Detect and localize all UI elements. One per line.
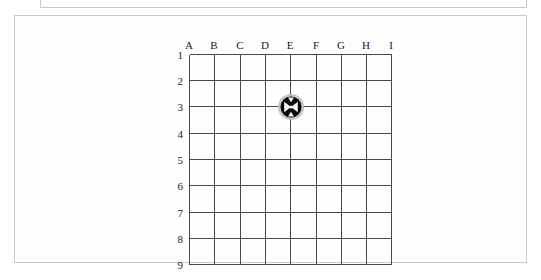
top-panel: [40, 0, 527, 8]
row-label-5: 5: [169, 155, 183, 166]
game-piece-e3[interactable]: [276, 92, 306, 122]
row-label-3: 3: [169, 102, 183, 113]
row-label-7: 7: [169, 208, 183, 219]
row-label-9: 9: [169, 260, 183, 271]
grid-lines: [189, 54, 392, 265]
coordinate-grid-board[interactable]: A B C D E F G H I 1 2 3 4 5 6 7 8 9: [189, 54, 392, 265]
row-label-1: 1: [169, 50, 183, 61]
column-label-h: H: [357, 40, 375, 51]
row-label-6: 6: [169, 181, 183, 192]
column-label-c: C: [231, 40, 249, 51]
column-label-e: E: [281, 40, 299, 51]
main-panel: A B C D E F G H I 1 2 3 4 5 6 7 8 9: [14, 15, 527, 263]
row-label-4: 4: [169, 129, 183, 140]
column-label-i: I: [382, 40, 400, 51]
column-label-b: B: [205, 40, 223, 51]
column-label-f: F: [307, 40, 325, 51]
row-label-8: 8: [169, 234, 183, 245]
column-label-d: D: [256, 40, 274, 51]
row-label-2: 2: [169, 76, 183, 87]
column-label-g: G: [332, 40, 350, 51]
